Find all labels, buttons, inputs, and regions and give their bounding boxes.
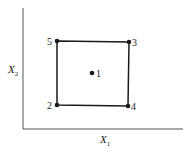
point-2-label: 2: [47, 100, 52, 111]
point-3-marker: [127, 40, 132, 45]
point-1-marker: [90, 71, 95, 76]
point-2-marker: [55, 103, 60, 108]
point-3-label: 3: [132, 37, 137, 48]
y-axis-label: X2: [7, 63, 19, 78]
point-1-label: 1: [96, 68, 101, 79]
point-4-label: 4: [131, 101, 136, 112]
point-5-label: 5: [47, 36, 52, 47]
point-5-marker: [55, 39, 60, 44]
point-4-marker: [126, 104, 131, 109]
x-axis-label: X1: [99, 133, 111, 148]
design-diagram: 5 3 2 4 1 X2 X1: [0, 0, 196, 152]
